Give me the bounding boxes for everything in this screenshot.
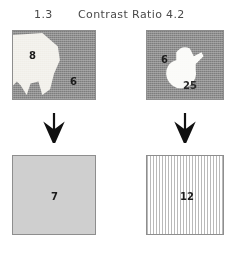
- plate-label-7: 7: [51, 192, 58, 202]
- down-arrow-left-icon: [43, 113, 65, 143]
- plate-label-6-left: 6: [70, 77, 77, 87]
- plate-top-right-high-contrast: 6 25: [146, 30, 224, 100]
- plate-label-8: 8: [29, 51, 36, 61]
- plate-label-6-right: 6: [161, 55, 168, 65]
- figure-title: Contrast Ratio: [78, 8, 162, 21]
- contrast-ratio-figure: 1.3 Contrast Ratio 4.2 8 6 6 25 7 12: [0, 0, 235, 253]
- camouflage-shape-left: [13, 31, 95, 99]
- down-arrow-right-icon: [174, 113, 196, 143]
- plate-label-12: 12: [180, 192, 194, 202]
- plate-bottom-right-striped: 12: [146, 155, 224, 235]
- plate-bottom-left-uniform: 7: [12, 155, 96, 235]
- plate-top-left-low-contrast: 8 6: [12, 30, 96, 100]
- contrast-ratio-left-value: 1.3: [34, 8, 53, 21]
- contrast-ratio-right-value: 4.2: [166, 8, 185, 21]
- plate-label-25: 25: [183, 81, 197, 91]
